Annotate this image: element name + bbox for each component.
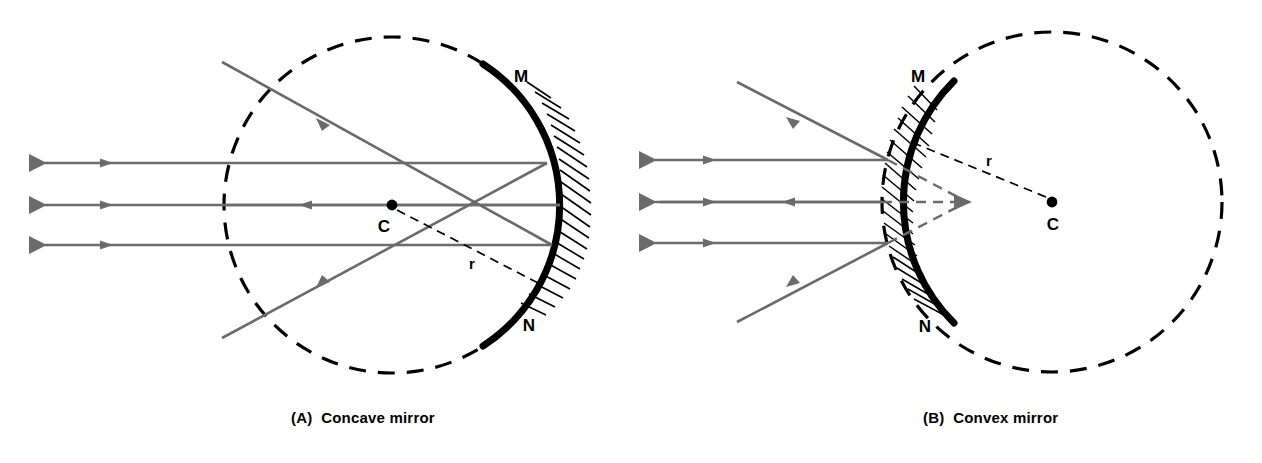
label-c-b: C: [1047, 215, 1059, 234]
label-m-b: M: [911, 67, 925, 86]
reflected-ray-arrowheads-a: [299, 118, 330, 288]
radius-line-a: [397, 210, 540, 284]
label-r-a: r: [469, 255, 475, 272]
reflected-ray-a-1: [222, 163, 547, 338]
mirror-hatching-b: [882, 86, 944, 315]
caption-convex-mirror: (B) Convex mirror: [923, 409, 1058, 426]
label-c-a: C: [378, 217, 390, 236]
virtual-focus-arrowhead-b: [954, 194, 972, 210]
label-r-b: r: [986, 152, 992, 169]
label-n-b: N: [919, 317, 931, 336]
figure-root: C r M N: [0, 0, 1262, 463]
center-of-curvature-dot-b: [1047, 197, 1058, 208]
reflected-rays-b: [660, 82, 888, 322]
caption-concave-mirror: (A) Concave mirror: [291, 409, 435, 426]
panel-a-concave: C r M N: [45, 37, 591, 373]
center-of-curvature-dot-a: [387, 200, 398, 211]
label-m-a: M: [514, 67, 528, 86]
convex-mirror-arc: [903, 81, 954, 323]
panel-b-convex: C r M N: [655, 32, 1222, 372]
mirror-diagram-canvas: C r M N: [0, 0, 1262, 463]
reflected-ray-b-1: [737, 82, 888, 160]
radius-line-b: [916, 144, 1046, 197]
reflected-ray-b-3: [737, 243, 888, 322]
label-n-a: N: [523, 316, 535, 335]
